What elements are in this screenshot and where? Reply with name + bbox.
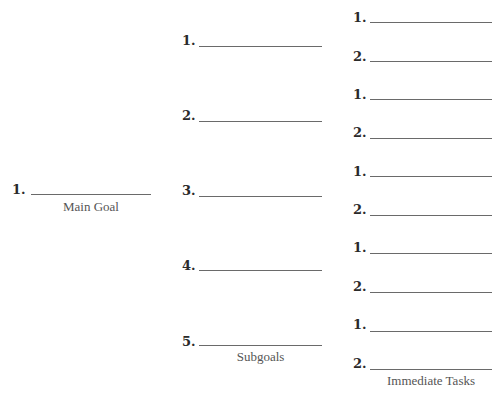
subgoal-blank-3[interactable] (199, 196, 322, 197)
task-blank-4-2[interactable] (370, 292, 492, 293)
task-blank-3-1[interactable] (370, 176, 492, 177)
task-blank-3-2[interactable] (370, 215, 492, 216)
task-number: 2. (353, 357, 367, 371)
task-blank-1-2[interactable] (370, 61, 492, 62)
task-blank-4-1[interactable] (370, 253, 492, 254)
main-goal-blank[interactable] (31, 194, 151, 195)
task-number: 2. (353, 50, 367, 64)
task-blank-5-1[interactable] (370, 331, 492, 332)
subgoal-blank-2[interactable] (199, 121, 322, 122)
task-number: 2. (353, 126, 367, 140)
immediate-tasks-caption: Immediate Tasks (370, 374, 492, 388)
task-number: 1. (353, 88, 367, 102)
task-number: 2. (353, 203, 367, 217)
subgoals-caption: Subgoals (199, 350, 322, 364)
subgoal-blank-5[interactable] (199, 345, 322, 346)
subgoal-blank-1[interactable] (199, 46, 322, 47)
task-number: 1. (353, 11, 367, 25)
task-number: 1. (353, 318, 367, 332)
task-blank-2-2[interactable] (370, 138, 492, 139)
task-number: 1. (353, 241, 367, 255)
task-number: 2. (353, 280, 367, 294)
task-blank-2-1[interactable] (370, 99, 492, 100)
main-goal-caption: Main Goal (31, 200, 151, 214)
task-blank-1-1[interactable] (370, 22, 492, 23)
subgoal-number: 1. (182, 34, 196, 48)
task-blank-5-2[interactable] (370, 369, 492, 370)
subgoal-number: 5. (182, 335, 196, 349)
subgoal-blank-4[interactable] (199, 270, 322, 271)
subgoal-number: 3. (182, 184, 196, 198)
main-goal-number: 1. (12, 183, 26, 197)
task-number: 1. (353, 165, 367, 179)
subgoal-number: 4. (182, 259, 196, 273)
subgoal-number: 2. (182, 109, 196, 123)
